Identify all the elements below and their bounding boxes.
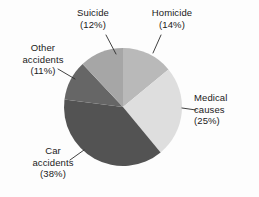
leader-line-homicide xyxy=(153,35,161,53)
pie-label-car-accidents-percent: (38%) xyxy=(16,168,90,180)
pie-label-medical-causes-percent: (25%) xyxy=(194,115,256,127)
pie-label-other-accidents-percent: (11%) xyxy=(4,65,82,77)
pie-label-other-accidents-line2: accidents xyxy=(4,54,82,66)
pie-label-medical-causes: Medical causes (25%) xyxy=(194,92,256,127)
pie-label-suicide-name: Suicide xyxy=(77,7,109,18)
pie-label-other-accidents-line1: Other xyxy=(31,42,55,53)
pie-label-car-accidents-line2: accidents xyxy=(16,157,90,169)
pie-chart: Suicide (12%) Homicide (14%) Other accid… xyxy=(0,0,259,197)
pie-label-homicide: Homicide (14%) xyxy=(136,7,208,30)
pie-label-medical-causes-line2: causes xyxy=(194,104,256,116)
pie-label-suicide: Suicide (12%) xyxy=(62,7,124,30)
pie-label-car-accidents-line1: Car xyxy=(45,145,61,156)
pie-label-other-accidents: Other accidents (11%) xyxy=(4,42,82,77)
pie-label-car-accidents: Car accidents (38%) xyxy=(16,145,90,180)
pie-label-medical-causes-line1: Medical xyxy=(194,92,227,103)
pie-label-homicide-name: Homicide xyxy=(152,7,192,18)
pie-label-homicide-percent: (14%) xyxy=(136,19,208,31)
pie-label-suicide-percent: (12%) xyxy=(62,19,124,31)
